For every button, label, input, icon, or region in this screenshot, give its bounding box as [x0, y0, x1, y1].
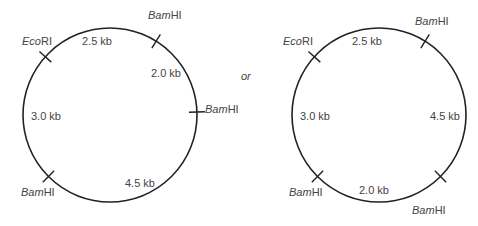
fragment-size-label: 4.5 kb: [125, 177, 155, 189]
fragment-size-label: 2.5 kb: [352, 35, 382, 47]
fragment-size-label: 3.0 kb: [31, 110, 61, 122]
restriction-site-label: BamHI: [205, 103, 239, 115]
restriction-site-label: BamHI: [412, 204, 446, 216]
restriction-site-label: EcoRI: [22, 35, 52, 47]
restriction-site-tick: [152, 34, 160, 48]
fragment-size-label: 2.5 kb: [82, 35, 112, 47]
fragment-size-label: 2.0 kb: [151, 67, 181, 79]
fragment-size-label: 4.5 kb: [430, 110, 460, 122]
fragment-size-label: 3.0 kb: [300, 110, 330, 122]
restriction-site-label: BamHI: [289, 186, 323, 198]
restriction-site-tick: [421, 34, 429, 48]
restriction-site-label: BamHI: [21, 186, 55, 198]
restriction-site-tick: [189, 112, 205, 113]
fragment-size-label: 2.0 kb: [359, 184, 389, 196]
or-connector: or: [241, 70, 251, 82]
restriction-site-label: BamHI: [415, 15, 449, 27]
restriction-site-label: BamHI: [148, 9, 182, 21]
restriction-site-label: EcoRI: [283, 35, 313, 47]
plasmid-diagram: [0, 0, 478, 226]
